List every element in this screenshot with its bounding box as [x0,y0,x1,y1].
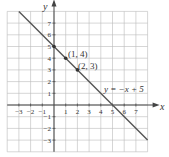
x-tick-label: 4 [99,108,103,116]
y-tick-label: 1 [48,90,52,98]
line-graph: −3−2−112345677654321−1−2−3 x y (1, 4) (2… [0,0,169,157]
y-tick-label: −2 [44,125,52,133]
data-point [64,56,68,60]
y-tick-label: 6 [48,31,52,39]
x-tick-label: −2 [27,108,35,116]
y-tick-label: 2 [48,78,52,86]
plot-line [19,11,148,140]
equation-label: y = −x + 5 [103,84,144,94]
tick-labels: −3−2−112345677654321−1−2−3 [15,20,138,145]
y-tick-label: 4 [48,55,52,63]
x-tick-label: −3 [15,108,23,116]
data-point [52,45,56,49]
x-tick-label: 2 [76,108,80,116]
y-tick-label: −1 [44,113,52,121]
grid [7,11,147,151]
x-tick-label: 1 [64,108,68,116]
x-axis-label: x [159,101,165,112]
series-line [19,11,148,140]
x-tick-label: 7 [134,108,138,116]
x-tick-label: 5 [111,108,115,116]
point-label-2-3: (2, 3) [78,61,98,71]
y-tick-label: 7 [48,20,52,28]
x-tick-label: 3 [87,108,91,116]
y-tick-label: 3 [48,66,52,74]
y-axis-label: y [42,1,48,12]
point-label-1-4: (1, 4) [68,49,88,59]
y-tick-label: −3 [44,137,52,145]
